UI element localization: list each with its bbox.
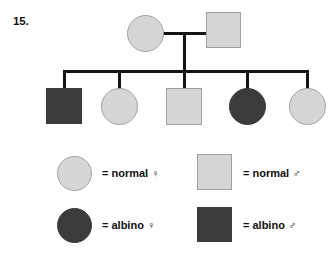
drop-line-II-1 — [63, 70, 66, 90]
question-number: 15. — [13, 16, 28, 28]
individual-II-1-albino-male — [46, 88, 82, 124]
drop-line-II-4 — [246, 70, 249, 90]
descent-line — [183, 32, 186, 73]
legend-label-albino-female: = albino ♀ — [102, 220, 155, 231]
individual-II-2-normal-female — [101, 88, 138, 125]
legend-swatch-albino-male — [197, 207, 232, 242]
individual-II-5-normal-female — [289, 88, 326, 125]
legend-label-albino-male: = albino ♂ — [243, 220, 296, 231]
legend-label-normal-male: = normal ♂ — [243, 168, 300, 179]
pedigree-figure: 15. = normal ♀ = normal ♂ = albino ♀ = a… — [0, 0, 333, 257]
drop-line-II-3 — [183, 70, 186, 90]
legend-swatch-albino-female — [57, 208, 92, 243]
legend-label-normal-female: = normal ♀ — [102, 168, 159, 179]
individual-II-4-albino-female — [229, 88, 266, 125]
individual-II-3-normal-male — [166, 88, 202, 125]
drop-line-II-2 — [118, 70, 121, 90]
legend-swatch-normal-male — [197, 154, 232, 190]
drop-line-II-5 — [306, 70, 309, 90]
individual-I-2-father-normal-male — [206, 12, 241, 48]
sibship-line — [63, 70, 309, 73]
legend-swatch-normal-female — [57, 156, 92, 191]
individual-I-1-mother-normal-female — [127, 15, 164, 52]
